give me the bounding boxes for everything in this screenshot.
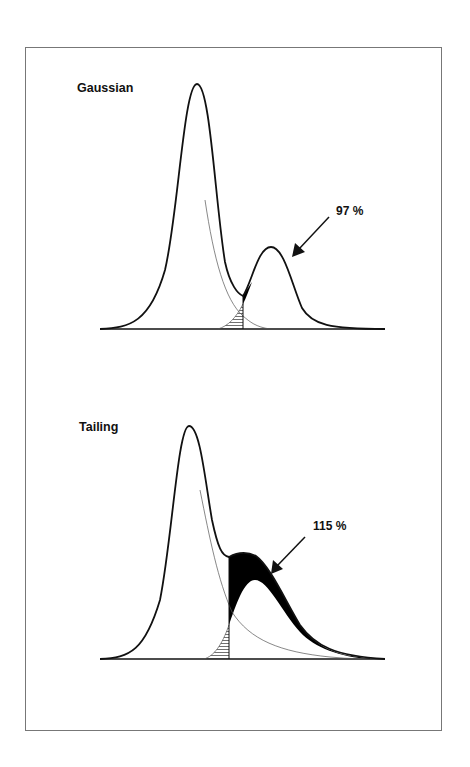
tailing-black-area [229,553,370,659]
tailing-title: Tailing [79,420,118,434]
gaussian-peak1-thin [205,200,270,329]
tailing-percentage: 115 % [313,519,346,533]
gaussian-title: Gaussian [77,81,133,95]
chromatogram-figure [0,0,470,767]
gaussian-arrow-icon [292,217,329,257]
tailing-envelope [100,426,385,659]
tailing-hatched-area [204,625,229,659]
gaussian-percentage: 97 % [336,204,363,218]
tailing-panel [100,426,385,659]
tailing-arrow-icon [271,537,305,574]
gaussian-hatched-area [218,304,243,329]
